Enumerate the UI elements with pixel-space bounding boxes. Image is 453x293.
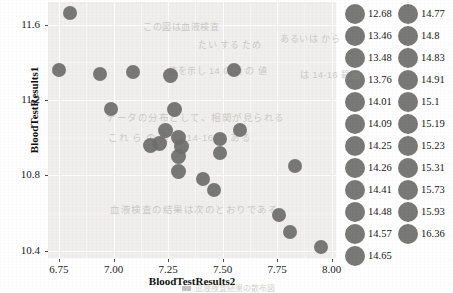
legend-item-label: 15.1 xyxy=(421,96,439,107)
data-point xyxy=(52,63,66,77)
x-tick-mark xyxy=(114,259,115,262)
legend-item[interactable]: 14.65 xyxy=(344,245,398,267)
legend-item[interactable]: 14.91 xyxy=(397,69,451,91)
y-tick-mark xyxy=(45,100,48,101)
data-point xyxy=(93,67,107,81)
y-tick-mark xyxy=(45,251,48,252)
gridline-horizontal xyxy=(48,251,336,252)
legend-swatch-circle-icon xyxy=(345,158,365,178)
gridline-vertical xyxy=(114,2,115,258)
x-tick-mark xyxy=(277,259,278,262)
legend-swatch-circle-icon xyxy=(398,26,418,46)
legend-swatch-circle-icon xyxy=(345,246,365,266)
x-tick-label: 6.75 xyxy=(34,264,84,275)
legend-swatch-circle-icon xyxy=(398,114,418,134)
legend-item[interactable]: 15.73 xyxy=(397,179,451,201)
legend-item-label: 13.76 xyxy=(368,74,392,85)
legend-item[interactable]: 15.93 xyxy=(397,201,451,223)
data-point xyxy=(171,149,186,164)
bleed-through-text: たい する ため xyxy=(198,38,261,51)
legend-item[interactable]: 14.01 xyxy=(344,91,398,113)
data-point xyxy=(213,146,227,160)
legend-item-label: 14.26 xyxy=(368,162,392,173)
legend-swatch-circle-icon xyxy=(345,70,365,90)
legend-swatch-circle-icon xyxy=(398,158,418,178)
legend-item[interactable]: 12.68 xyxy=(344,3,398,25)
legend-item-label: 15.93 xyxy=(421,206,445,217)
legend-item[interactable]: 13.48 xyxy=(344,47,398,69)
legend-item-label: 14.91 xyxy=(421,74,445,85)
figure-caption: 血液検査結果の散布図 xyxy=(195,285,445,293)
legend-item[interactable]: 14.25 xyxy=(344,135,398,157)
legend-item[interactable]: 14.41 xyxy=(344,179,398,201)
legend-item[interactable]: 14.83 xyxy=(397,47,451,69)
legend-item[interactable]: 15.1 xyxy=(397,91,451,113)
gridline-vertical-minor xyxy=(250,2,251,258)
caption-marker-icon xyxy=(182,286,191,291)
legend-swatch-circle-icon xyxy=(345,4,365,24)
y-tick-label: 11.6 xyxy=(0,19,40,30)
legend-item[interactable]: 14.57 xyxy=(344,223,398,245)
legend-swatch-circle-icon xyxy=(345,92,365,112)
legend-item-label: 14.65 xyxy=(368,250,392,261)
legend-item-label: 14.41 xyxy=(368,184,392,195)
y-tick-label: 10.8 xyxy=(0,169,40,180)
data-point xyxy=(152,136,167,151)
legend-swatch-circle-icon xyxy=(345,114,365,134)
legend-swatch-circle-icon xyxy=(345,48,365,68)
legend-item-label: 13.48 xyxy=(368,52,392,63)
data-point xyxy=(163,68,178,83)
legend-item-label: 16.36 xyxy=(421,228,445,239)
legend-item[interactable]: 16.36 xyxy=(397,223,451,245)
data-point xyxy=(196,172,210,186)
legend-item[interactable]: 15.19 xyxy=(397,113,451,135)
legend-swatch-circle-icon xyxy=(345,180,365,200)
legend-item[interactable]: 13.46 xyxy=(344,25,398,47)
data-point xyxy=(283,225,297,239)
data-point xyxy=(213,132,227,146)
legend-item[interactable]: 14.48 xyxy=(344,201,398,223)
legend-swatch-circle-icon xyxy=(398,70,418,90)
data-point xyxy=(167,102,182,117)
legend-swatch-circle-icon xyxy=(345,136,365,156)
legend-item-label: 12.68 xyxy=(368,8,392,19)
gridline-vertical-minor xyxy=(195,2,196,258)
x-tick-mark xyxy=(168,259,169,262)
y-axis-title: BloodTestResults1 xyxy=(28,50,40,170)
data-point xyxy=(288,159,302,173)
data-point xyxy=(126,65,140,79)
legend-swatch-circle-icon xyxy=(345,202,365,222)
legend-swatch-circle-icon xyxy=(398,202,418,222)
x-tick-label: 7.25 xyxy=(143,264,193,275)
legend-item[interactable]: 15.31 xyxy=(397,157,451,179)
legend-item[interactable]: 13.76 xyxy=(344,69,398,91)
data-point xyxy=(63,6,77,20)
data-point xyxy=(104,102,118,116)
legend-item-label: 14.09 xyxy=(368,118,392,129)
data-point xyxy=(227,63,241,77)
legend-item-label: 15.23 xyxy=(421,140,445,151)
legend-item-label: 13.46 xyxy=(368,30,392,41)
x-tick-label: 7.75 xyxy=(252,264,302,275)
gridline-vertical xyxy=(59,2,60,258)
legend-item-label: 15.73 xyxy=(421,184,445,195)
legend: 12.6813.4613.4813.7614.0114.0914.2514.26… xyxy=(344,0,453,292)
gridline-vertical xyxy=(223,2,224,258)
bleed-through-text: この図は血液検査 xyxy=(143,20,219,33)
legend-swatch-circle-icon xyxy=(398,48,418,68)
x-tick-mark xyxy=(59,259,60,262)
legend-item[interactable]: 14.8 xyxy=(397,25,451,47)
legend-item[interactable]: 14.09 xyxy=(344,113,398,135)
legend-item[interactable]: 14.26 xyxy=(344,157,398,179)
scatter-chart: この図は血液検査たい する ためあるいは から値を示し 14 の項 の 値は 1… xyxy=(0,0,340,292)
legend-item[interactable]: 15.23 xyxy=(397,135,451,157)
gridline-vertical-minor xyxy=(86,2,87,258)
legend-item[interactable]: 14.77 xyxy=(397,3,451,25)
legend-swatch-circle-icon xyxy=(398,4,418,24)
legend-item-label: 14.57 xyxy=(368,228,392,239)
legend-item-label: 15.19 xyxy=(421,118,445,129)
gridline-vertical-minor xyxy=(141,2,142,258)
bleed-through-text: 血液検査の結果は次のとおりである xyxy=(110,202,278,216)
legend-swatch-circle-icon xyxy=(345,26,365,46)
gridline-vertical-minor xyxy=(304,2,305,258)
